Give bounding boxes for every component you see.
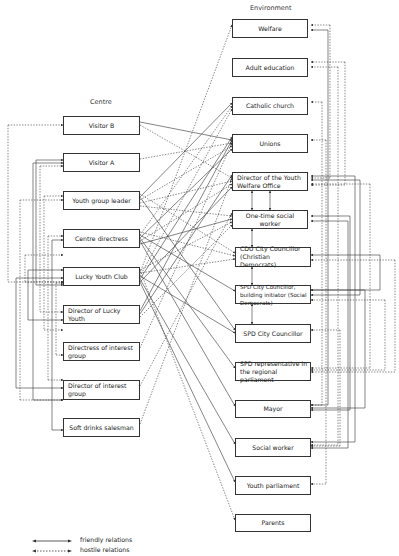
node-lucky-youth-club[interactable]: Lucky Youth Club (63, 267, 140, 286)
node-catholic-church[interactable]: Catholic church (232, 97, 308, 115)
node-soft-drinks-salesman[interactable]: Soft drinks salesman (63, 418, 140, 437)
node-cdu-city-councillor[interactable]: CDU City Councillor (Christian Democrats… (235, 247, 311, 267)
node-spd-regional-representative[interactable]: SPD representative in the regional parli… (235, 362, 311, 381)
node-unions[interactable]: Unions (232, 134, 308, 153)
node-centre-directress[interactable]: Centre directress (63, 229, 140, 248)
node-visitor-b[interactable]: Visitor B (63, 116, 140, 135)
node-youth-group-leader[interactable]: Youth group leader (63, 191, 140, 210)
node-adult-education[interactable]: Adult education (232, 58, 308, 77)
legend-hostile: hostile relations (28, 546, 168, 556)
cross-connectors (140, 25, 235, 520)
node-director-interest-group[interactable]: Director of interest group (63, 380, 140, 400)
node-parents[interactable]: Parents (235, 514, 311, 532)
node-director-youth-welfare-office[interactable]: Director of the Youth Welfare Office (232, 172, 308, 191)
node-directress-interest-group[interactable]: Directress of interest group (63, 342, 140, 361)
node-spd-city-councillor[interactable]: SPD City Councillor (235, 324, 311, 343)
bus-connectors (8, 25, 395, 484)
relations-diagram (0, 0, 399, 556)
node-welfare[interactable]: Welfare (232, 19, 308, 38)
node-one-time-social-worker[interactable]: One-time social worker (232, 210, 308, 229)
legend-friendly-label: friendly relations (80, 536, 132, 543)
node-youth-parliament[interactable]: Youth parliament (235, 476, 311, 495)
node-social-worker[interactable]: Social worker (235, 438, 311, 457)
node-visitor-a[interactable]: Visitor A (63, 153, 140, 172)
hostile-line-icon (32, 547, 72, 555)
legend-friendly: friendly relations (28, 536, 168, 546)
node-spd-building-initiator[interactable]: SPD City Councillor, building initiator … (235, 285, 311, 304)
friendly-line-icon (32, 537, 72, 545)
environment-title: Environment (250, 4, 292, 12)
centre-title: Centre (90, 98, 112, 106)
node-mayor[interactable]: Mayor (235, 400, 311, 418)
legend-hostile-label: hostile relations (80, 546, 129, 553)
node-director-lucky-youth[interactable]: Director of Lucky Youth (63, 305, 140, 324)
